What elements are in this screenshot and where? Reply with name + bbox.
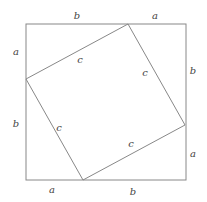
label-right-a: a (190, 148, 196, 159)
label-bottom-b: b (130, 186, 136, 197)
label-left-a: a (13, 46, 19, 57)
outer-square (26, 24, 186, 180)
label-top-a: a (152, 10, 158, 21)
label-left-b: b (13, 118, 19, 129)
label-inner-top-c: c (77, 54, 83, 65)
label-inner-bottom-c: c (128, 138, 134, 149)
label-bottom-a: a (49, 184, 55, 195)
label-inner-right-c: c (142, 67, 148, 78)
label-top-b: b (74, 10, 80, 21)
label-right-b: b (190, 65, 196, 76)
pythagorean-diagram: baabbaabcccc (0, 0, 207, 202)
label-inner-left-c: c (56, 122, 62, 133)
inner-square (26, 24, 185, 180)
